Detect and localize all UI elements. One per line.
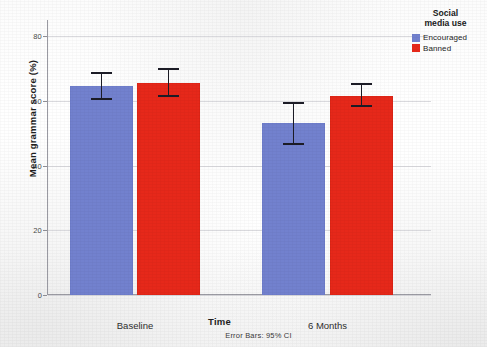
legend-item-label: Encouraged: [423, 33, 467, 42]
error-bar-cap-upper: [351, 83, 372, 85]
error-bar-stem: [293, 102, 295, 146]
bar: [70, 86, 133, 295]
y-tick-mark: [43, 295, 47, 296]
error-bar-cap-upper: [283, 102, 304, 104]
error-bar-cap-lower: [351, 105, 372, 107]
plot-area: 020406080Baseline6 Months: [48, 20, 431, 295]
error-bar-cap-upper: [158, 68, 179, 70]
y-tick-label: 20: [33, 226, 42, 235]
chart-footnote: Error Bars: 95% CI: [0, 331, 487, 340]
legend-color-swatch: [412, 44, 420, 52]
legend-item: Banned: [412, 44, 487, 53]
x-axis-title-text: Time: [208, 316, 231, 327]
error-bar: [330, 83, 393, 108]
legend-item-label: Banned: [423, 44, 451, 53]
legend-title: Social media use: [404, 8, 487, 28]
bar: [137, 83, 200, 295]
error-bar-cap-upper: [91, 72, 112, 74]
error-bar-cap-lower: [158, 95, 179, 97]
y-tick-mark: [43, 166, 47, 167]
chart-footnote-text: Error Bars: 95% CI: [225, 331, 292, 340]
legend-item: Encouraged: [412, 33, 487, 42]
bar-chart-figure: 020406080Baseline6 Months Mean grammar s…: [0, 0, 487, 347]
error-bar-stem: [168, 68, 170, 97]
legend-color-swatch: [412, 34, 420, 42]
error-bar-cap-lower: [91, 98, 112, 100]
error-bar: [137, 68, 200, 97]
y-axis-title: Mean grammar score (%): [27, 29, 38, 209]
y-tick-mark: [43, 36, 47, 37]
error-bar-cap-lower: [283, 143, 304, 145]
error-bar-stem: [361, 83, 363, 108]
bar: [262, 123, 325, 295]
y-tick-mark: [43, 101, 47, 102]
error-bar: [262, 102, 325, 146]
bar: [330, 96, 393, 295]
gridline: [48, 36, 431, 37]
legend-items: EncouragedBanned: [404, 33, 487, 53]
error-bar: [70, 72, 133, 100]
legend: Social media use EncouragedBanned: [404, 8, 487, 54]
x-axis-title: Time: [0, 316, 487, 327]
gridline: [48, 295, 431, 296]
error-bar-stem: [101, 72, 103, 100]
y-tick-mark: [43, 230, 47, 231]
y-tick-label: 0: [38, 291, 42, 300]
